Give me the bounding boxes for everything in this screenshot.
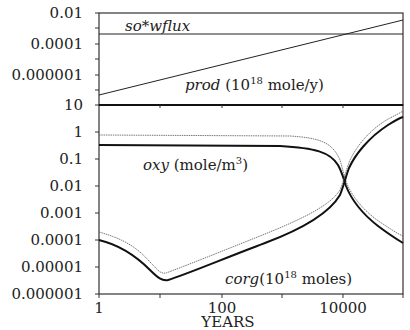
y-tick-label: 0.000001 [11,66,83,84]
y-tick-label: 0.00001 [21,258,83,276]
y-tick-label: 10 [64,96,83,114]
prod-label-exp: 18 [250,75,263,86]
y-tick-label: 0.0001 [31,231,84,249]
y-tick-label: 1 [73,123,83,141]
prod-label-var: prod [185,76,220,94]
y-tick-label: 0.000001 [11,285,83,303]
corg-label-close: moles) [297,270,352,288]
series-corg-thick [99,117,403,280]
y-tick-label: 0.01 [50,177,83,195]
prod-label-open: (10 [220,76,250,94]
y-tick-label: 0.0001 [31,35,84,53]
series-oxy-thin [99,135,403,236]
oxy-label-unit: (mole/m [169,156,236,174]
y-tick-label: 0.1 [59,150,83,168]
corg-label-open: (10 [259,270,284,288]
oxy-label-var: oxy [143,156,169,174]
y-tick-label: 0.001 [40,204,83,222]
corg-label: corg(1018 moles) [225,269,352,288]
prod-label: prod (1018 mole/y) [185,75,324,94]
chart: 0.01 0.0001 0.000001 10 1 0.1 0.01 0.001… [0,0,410,330]
y-tick-label: 0.01 [50,4,83,22]
sowflux-label: so*wflux [125,17,191,35]
x-tick-label: 10000 [319,299,367,317]
oxy-label-close: ) [242,156,248,174]
corg-label-var: corg [225,270,259,288]
oxy-label: oxy (mole/m3) [143,155,248,174]
prod-label-close: mole/y) [263,76,324,94]
x-axis-title: YEARS [200,313,254,330]
corg-label-exp: 18 [284,269,297,280]
x-tick-label: 1 [94,299,104,317]
